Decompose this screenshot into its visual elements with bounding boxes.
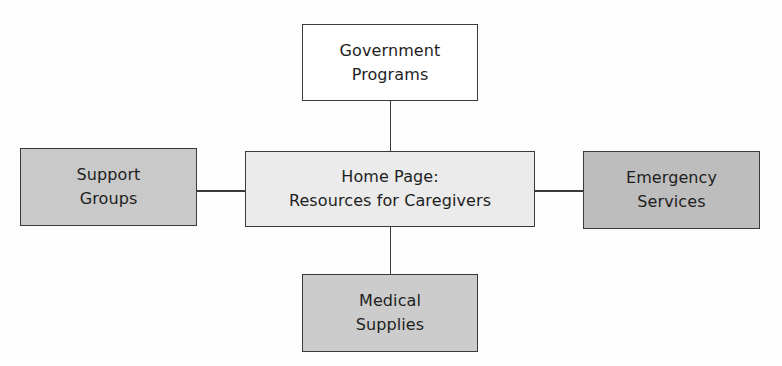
node-label-line: Emergency — [626, 166, 717, 190]
node-label-line: Home Page: — [341, 165, 438, 189]
node-government-programs: Government Programs — [302, 24, 478, 101]
node-label-line: Groups — [80, 187, 138, 211]
node-emergency-services: Emergency Services — [583, 151, 760, 229]
node-label-line: Medical — [359, 289, 421, 313]
node-support-groups: Support Groups — [20, 148, 197, 226]
node-label-line: Services — [637, 190, 705, 214]
site-map-diagram: Government Programs Support Groups Home … — [0, 0, 782, 366]
node-label-line: Support — [77, 163, 141, 187]
node-label-line: Supplies — [356, 313, 424, 337]
node-label-line: Resources for Caregivers — [289, 189, 491, 213]
connector-home-to-medical-supplies — [390, 227, 392, 274]
node-label-line: Government — [340, 39, 441, 63]
node-home-page: Home Page: Resources for Caregivers — [245, 151, 535, 227]
connector-home-to-government — [390, 101, 392, 151]
node-label-line: Programs — [352, 63, 429, 87]
node-medical-supplies: Medical Supplies — [302, 274, 478, 352]
connector-home-to-support-groups — [197, 190, 245, 192]
connector-home-to-emergency-services — [535, 190, 583, 192]
